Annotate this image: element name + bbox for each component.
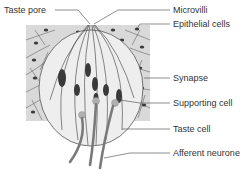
label-epithelial-cells: Epithelial cells bbox=[173, 19, 230, 29]
label-taste-pore: Taste pore bbox=[4, 5, 46, 15]
label-supporting-cell: Supporting cell bbox=[173, 98, 233, 108]
label-synapse: Synapse bbox=[173, 73, 208, 83]
taste-bud bbox=[39, 30, 143, 146]
label-taste-cell: Taste cell bbox=[173, 124, 211, 134]
label-microvilli: Microvilli bbox=[173, 5, 208, 15]
label-afferent-neurone: Afferent neurone bbox=[173, 148, 240, 158]
